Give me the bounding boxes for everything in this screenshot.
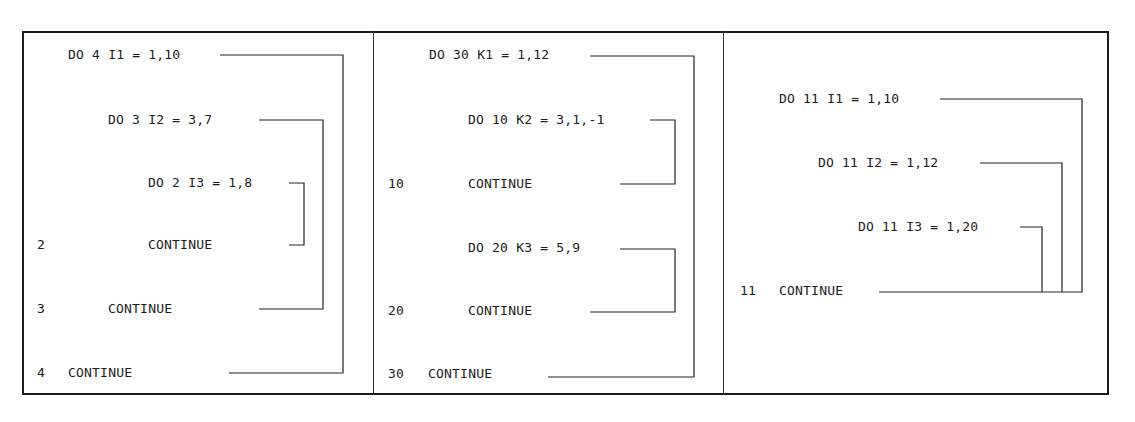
bracket-loop-10	[620, 120, 675, 184]
bracket-loop-20	[590, 249, 675, 312]
bracket-loop-11-i1	[879, 99, 1082, 292]
bracket-loop-3	[259, 120, 323, 309]
bracket-loop-30	[548, 56, 694, 377]
loop-range-brackets	[0, 0, 1135, 422]
bracket-loop-4	[220, 55, 343, 373]
bracket-loop-11-i3	[1020, 227, 1042, 292]
bracket-loop-2	[289, 183, 304, 245]
